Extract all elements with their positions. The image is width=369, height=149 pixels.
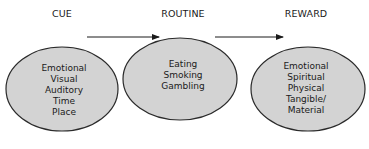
habit-loop-diagram: CUE ROUTINE REWARD Emotional Visual Audi… <box>0 0 369 149</box>
routine-item: Gambling <box>161 81 204 91</box>
cue-item: Emotional <box>41 63 86 73</box>
cue-item: Time <box>52 96 75 106</box>
routine-item: Eating <box>169 59 198 69</box>
reward-item: Material <box>288 105 325 115</box>
stage-label-routine: ROUTINE <box>161 8 204 19</box>
routine-item: Smoking <box>163 70 202 80</box>
reward-item: Spiritual <box>287 72 324 82</box>
cue-item: Auditory <box>45 85 84 95</box>
stage-label-cue: CUE <box>52 8 72 19</box>
cue-item: Place <box>52 107 76 117</box>
stage-label-reward: REWARD <box>285 8 328 19</box>
reward-item: Emotional <box>283 61 328 71</box>
reward-item: Physical <box>288 83 325 93</box>
reward-items: Emotional Spiritual Physical Tangible/ M… <box>283 61 328 115</box>
cue-item: Visual <box>51 74 78 84</box>
reward-item: Tangible/ <box>285 94 327 104</box>
